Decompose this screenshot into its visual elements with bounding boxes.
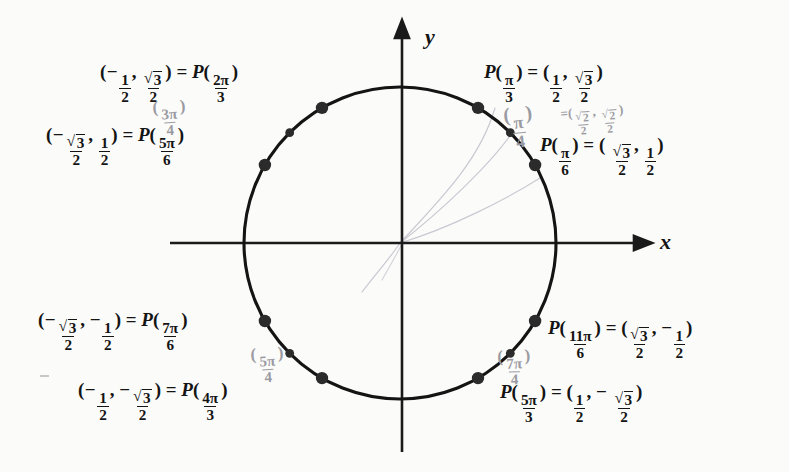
label-pi-3: P(π3) = (12, 32) [484,62,603,104]
pencil-annotation-pi-4: (π4) [502,101,536,153]
label-5pi-3: P(5π3) = (12, − 32) [500,382,642,424]
scan-artifact [40,375,49,377]
pencil-annotation-5pi-4: (5π4) [250,343,285,386]
x-axis-label: x [660,229,671,255]
point-11pi-6 [529,315,541,327]
pencil-radius-45 [400,133,512,243]
label-11pi-6: P(11π6) = (32, −12) [548,318,692,360]
label-7pi-6: (−32, −12) = P(7π6) [38,310,188,352]
pencil-radius-225 [362,243,400,292]
point-pi-3 [472,102,484,114]
pencil-radius-60 [400,108,495,243]
y-axis-label: y [425,24,435,50]
figure-canvas: y x (−12, 32) = P(2π3) (−32, 12) = P(5π6… [0,0,789,472]
point-4pi-3 [316,372,328,384]
point-3pi-4 [285,128,294,137]
y-axis-arrow [395,20,409,38]
point-5pi-6 [259,159,271,171]
x-axis-arrow [634,236,652,250]
label-4pi-3: (−12, −32) = P(4π3) [78,380,228,422]
point-7pi-6 [259,315,271,327]
label-pi-6: P(π6) = ( 32, 12) [540,135,664,177]
point-5pi-4 [285,349,294,358]
pencil-radius-30 [400,178,540,243]
point-5pi-3 [472,372,484,384]
point-2pi-3 [316,102,328,114]
pencil-annotation-7pi-4: (7π4) [497,346,531,388]
pencil-annotation-3pi-4: (3π4) [152,96,187,139]
pencil-annotation-sqrt2-coords: =(22, 22) [560,102,625,139]
